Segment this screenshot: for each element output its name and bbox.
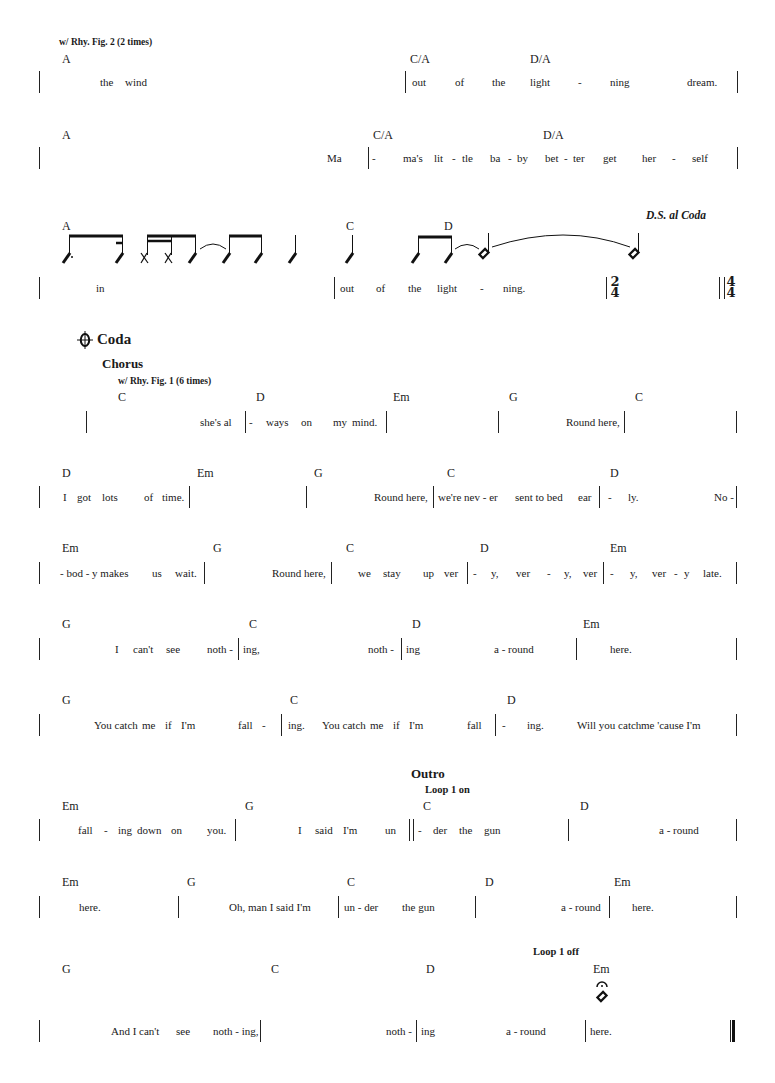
ds-al-coda-instruction: D.S. al Coda [646, 209, 706, 221]
barline [86, 411, 87, 433]
barline [736, 411, 737, 433]
barline [39, 819, 40, 841]
lyric-syllable: of [455, 76, 464, 88]
lyric-syllable: me 'cause I'm [641, 719, 701, 731]
barline [433, 486, 434, 508]
chord-symbol: G [213, 541, 222, 556]
lyric-syllable: - [452, 152, 456, 164]
lyric-syllable: Round here, [374, 491, 428, 503]
lyric-syllable: Round here, [272, 567, 326, 579]
lyric-syllable: y, [491, 567, 499, 579]
lyric-syllable: - [672, 152, 676, 164]
lyric-syllable: y, [630, 567, 638, 579]
chord-symbol: C [346, 541, 354, 556]
lyric-syllable: said [315, 824, 333, 836]
lyric-syllable: ear [578, 491, 591, 503]
barline [624, 411, 625, 433]
lyric-syllable: ver [444, 567, 458, 579]
chord-symbol: D [580, 799, 589, 814]
lyric-syllable: Round here, [566, 416, 620, 428]
lyric-syllable: dream. [687, 76, 717, 88]
lyric-syllable: - [104, 824, 108, 836]
barline [238, 638, 239, 660]
chord-symbol: C [290, 693, 298, 708]
lyric-syllable: noth - [386, 1025, 412, 1037]
barline [568, 819, 569, 841]
barline [334, 277, 335, 299]
chord-symbol: G [62, 693, 71, 708]
lyric-syllable: noth - [207, 643, 233, 655]
lyric-syllable: tle [462, 152, 473, 164]
barline [306, 486, 307, 508]
lyric-syllable: you. [207, 824, 226, 836]
barline [416, 1020, 417, 1042]
lyric-syllable: her [642, 152, 656, 164]
barline [585, 1020, 586, 1042]
lyric-syllable: time. [162, 491, 184, 503]
lyric-syllable: ways [266, 416, 289, 428]
lyric-syllable: late. [703, 567, 722, 579]
barline [189, 486, 190, 508]
barline [498, 411, 499, 433]
lyric-syllable: I'm [181, 719, 195, 731]
chord-symbol: G [62, 617, 71, 632]
lyric-syllable: ning [610, 76, 630, 88]
barline [245, 411, 246, 433]
barline [401, 638, 402, 660]
lyric-syllable: in [96, 282, 105, 294]
lyric-syllable: mind. [352, 416, 377, 428]
lyric-syllable: by [517, 152, 528, 164]
chord-symbol: C [271, 962, 279, 977]
lyric-syllable: ing, [243, 643, 260, 655]
lyric-syllable: - [480, 282, 484, 294]
chord-symbol: D [412, 617, 421, 632]
barline [599, 486, 600, 508]
lyric-syllable: And I can't [111, 1025, 159, 1037]
chord-symbol: C [447, 466, 455, 481]
lyric-syllable: here. [610, 643, 632, 655]
lyric-syllable: the [408, 282, 421, 294]
lyric-syllable: see [176, 1025, 190, 1037]
barline [736, 486, 737, 508]
lyric-syllable: stay [383, 567, 401, 579]
lyric-syllable: ning. [503, 282, 525, 294]
lyric-syllable: noth - [368, 643, 394, 655]
lyric-syllable: un [385, 824, 396, 836]
barline [39, 71, 40, 93]
lyric-syllable: I'm [343, 824, 357, 836]
chord-symbol: D/A [530, 52, 551, 67]
fermata-icon [594, 978, 610, 1006]
lyric-syllable: y, [564, 567, 572, 579]
barline [39, 147, 40, 169]
lyric-syllable: - [610, 567, 614, 579]
lyric-syllable: light [530, 76, 550, 88]
chord-symbol: G [187, 875, 196, 890]
barline [235, 819, 236, 841]
lyric-syllable: ly. [628, 491, 639, 503]
coda-label: Coda [97, 331, 131, 348]
lyric-syllable: un - der [344, 901, 378, 913]
chord-symbol: D/A [543, 128, 564, 143]
lyric-syllable: I [298, 824, 302, 836]
barline [606, 277, 607, 299]
chord-symbol: C [423, 799, 431, 814]
barline [39, 896, 40, 918]
chord-symbol: Em [610, 541, 627, 556]
lyric-syllable: we [358, 567, 371, 579]
lyric-syllable: if [393, 719, 400, 731]
barline [475, 896, 476, 918]
lyric-syllable: on [301, 416, 312, 428]
lyric-syllable: out [340, 282, 354, 294]
barline [405, 71, 406, 93]
lyric-syllable: we're nev - er [438, 491, 498, 503]
coda-icon [77, 331, 93, 349]
chord-symbol: C [249, 617, 257, 632]
lyric-syllable: on [171, 824, 182, 836]
chord-symbol: D [485, 875, 494, 890]
barline [260, 1020, 261, 1042]
lyric-syllable: I [115, 643, 119, 655]
chord-symbol: C [118, 390, 126, 405]
barline [338, 896, 339, 918]
barline [39, 277, 40, 299]
lyric-syllable: I [63, 491, 67, 503]
